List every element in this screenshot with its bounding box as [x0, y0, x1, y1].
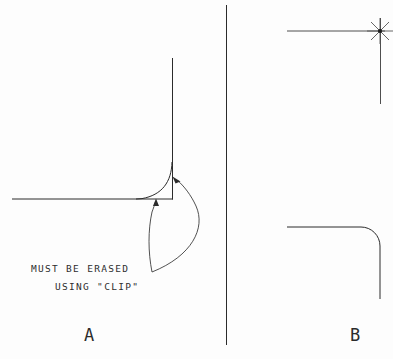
- leader-curve-tail: [149, 202, 156, 272]
- cad-drawing-root: MUST BE ERASED USING "CLIP" A: [0, 0, 393, 359]
- annotation-line-2: USING "CLIP": [55, 281, 139, 292]
- panel-a-group: MUST BE ERASED USING "CLIP" A: [12, 58, 199, 345]
- panel-b-label: B: [350, 325, 360, 345]
- panel-b-group: B: [287, 18, 393, 345]
- annotation-line-1: MUST BE ERASED: [31, 263, 129, 274]
- leader-curve-corner: [152, 180, 199, 272]
- leader-arrowhead-tail: [153, 199, 159, 207]
- node-snap-star-icon: [367, 18, 393, 44]
- panel-a-fillet-arc: [136, 162, 172, 199]
- panel-a-label: A: [84, 325, 94, 345]
- panel-b-bottom-filleted-corner: [287, 227, 380, 299]
- cad-canvas: MUST BE ERASED USING "CLIP" A: [0, 0, 393, 359]
